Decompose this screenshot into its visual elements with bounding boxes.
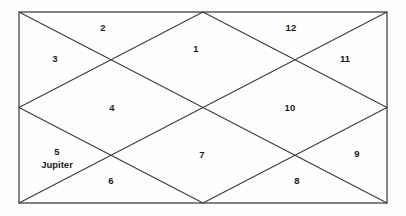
house-label-1: 1 (193, 43, 198, 55)
house-label-7: 7 (199, 149, 204, 161)
house-label-6: 6 (108, 175, 113, 187)
birth-chart: 1 2 3 4 5 6 7 8 9 10 11 12 Jupiter (0, 0, 406, 216)
planet-label-jupiter: Jupiter (41, 159, 73, 170)
house-label-3: 3 (52, 53, 57, 65)
house-label-12: 12 (286, 22, 297, 34)
house-label-5: 5 (54, 146, 59, 158)
chart-geometry (0, 0, 406, 216)
house-label-9: 9 (354, 148, 359, 160)
house-label-11: 11 (340, 53, 350, 65)
house-label-8: 8 (294, 175, 299, 187)
house-label-4: 4 (109, 102, 114, 114)
house-label-10: 10 (285, 102, 296, 114)
house-label-2: 2 (100, 22, 105, 34)
